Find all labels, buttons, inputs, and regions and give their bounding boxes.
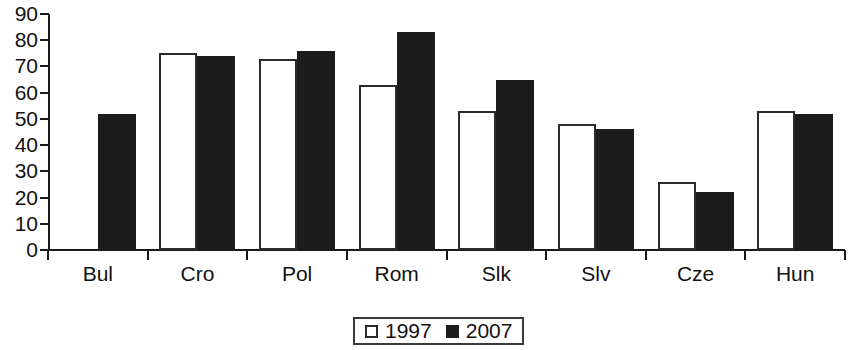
- x-axis-label-slv: Slv: [546, 261, 646, 286]
- y-tick-label: 90: [4, 3, 38, 24]
- y-tick-70: [40, 65, 49, 67]
- bar-rom-2007: [397, 32, 435, 250]
- bar-cro-2007: [197, 56, 235, 250]
- chart-legend: 1997 2007: [353, 317, 524, 345]
- bar-bul-2007: [98, 114, 136, 250]
- y-tick-label: 30: [4, 160, 38, 181]
- y-tick-label: 0: [4, 239, 38, 260]
- y-tick-label: 60: [4, 82, 38, 103]
- y-tick-label: 70: [4, 55, 38, 76]
- bar-rom-1997: [359, 85, 397, 250]
- x-axis-label-slk: Slk: [447, 261, 547, 286]
- open-square-icon: [365, 325, 378, 338]
- y-tick-20: [40, 197, 49, 199]
- bar-chart-figure: 9080706050403020100 BulCroPolRomSlkSlvCz…: [0, 0, 853, 350]
- x-tick: [47, 250, 49, 260]
- y-tick-label: 10: [4, 213, 38, 234]
- plot-area: 9080706050403020100 BulCroPolRomSlkSlvCz…: [0, 0, 853, 300]
- x-axis-label-pol: Pol: [247, 261, 347, 286]
- bar-cro-1997: [159, 53, 197, 250]
- bar-pol-1997: [259, 59, 297, 250]
- y-tick-50: [40, 118, 49, 120]
- x-axis-label-cro: Cro: [148, 261, 248, 286]
- x-tick: [246, 250, 248, 260]
- bar-hun-1997: [757, 111, 795, 250]
- x-axis-label-bul: Bul: [48, 261, 148, 286]
- filled-square-icon: [446, 325, 459, 338]
- y-tick-40: [40, 144, 49, 146]
- y-tick-30: [40, 170, 49, 172]
- y-tick-label: 40: [4, 134, 38, 155]
- y-tick-label: 80: [4, 29, 38, 50]
- bar-pol-2007: [297, 51, 335, 250]
- y-tick-60: [40, 92, 49, 94]
- x-tick: [545, 250, 547, 260]
- x-axis-label-cze: Cze: [646, 261, 746, 286]
- y-axis-line: [48, 14, 50, 251]
- bar-hun-2007: [795, 114, 833, 250]
- x-axis-label-hun: Hun: [745, 261, 845, 286]
- y-tick-80: [40, 39, 49, 41]
- y-tick-10: [40, 223, 49, 225]
- x-tick: [744, 250, 746, 260]
- y-tick-label: 20: [4, 187, 38, 208]
- bar-cze-2007: [696, 192, 734, 250]
- bar-slv-2007: [596, 129, 634, 250]
- legend-item-1997: 1997: [365, 319, 432, 343]
- legend-label-1997: 1997: [385, 319, 432, 343]
- bar-slk-2007: [496, 80, 534, 250]
- bar-slk-1997: [458, 111, 496, 250]
- x-tick: [645, 250, 647, 260]
- y-tick-label: 50: [4, 108, 38, 129]
- legend-item-2007: 2007: [446, 319, 513, 343]
- x-tick: [446, 250, 448, 260]
- legend-label-2007: 2007: [466, 319, 513, 343]
- x-tick: [844, 250, 846, 260]
- y-tick-90: [40, 13, 49, 15]
- bar-slv-1997: [558, 124, 596, 250]
- x-tick: [147, 250, 149, 260]
- x-axis-label-rom: Rom: [347, 261, 447, 286]
- bar-cze-1997: [658, 182, 696, 250]
- x-tick: [346, 250, 348, 260]
